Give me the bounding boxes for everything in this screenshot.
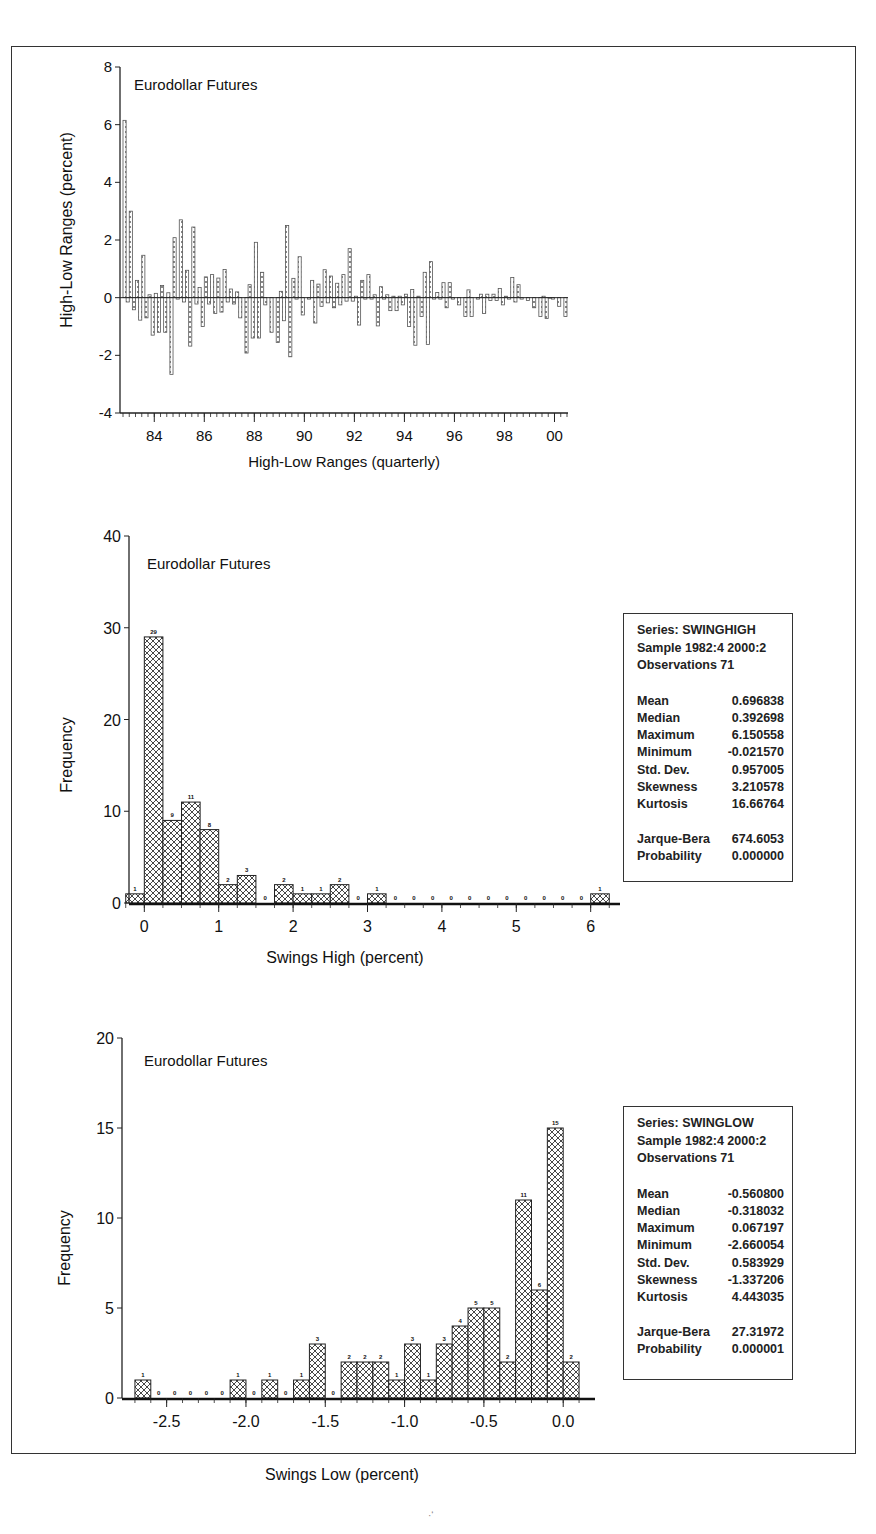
bar-low — [420, 298, 423, 317]
bar-high — [248, 285, 251, 298]
bar-low — [270, 298, 273, 333]
stat-row: Maximum6.150558 — [637, 727, 784, 744]
stat-row: Skewness-1.337206 — [637, 1272, 784, 1289]
bar-count-label: 0 — [157, 1390, 161, 1396]
bar-high — [423, 272, 426, 297]
bar-high — [136, 280, 139, 297]
x-tick-label: 1 — [214, 918, 223, 935]
bar-count-label: 11 — [188, 794, 195, 800]
x-tick-label: 94 — [396, 427, 413, 444]
stat-row: Skewness3.210578 — [637, 779, 784, 796]
bar-low — [245, 298, 248, 353]
x-tick-label: 86 — [196, 427, 213, 444]
bar-high — [129, 211, 132, 298]
chart-title: Eurodollar Futures — [144, 1052, 267, 1069]
y-tick-label: 20 — [103, 712, 121, 729]
histogram-bar — [547, 1128, 563, 1398]
bar-low — [232, 298, 235, 304]
stat-row: Mean-0.560800 — [637, 1186, 784, 1203]
bar-count-label: 1 — [268, 1372, 272, 1378]
bar-count-label: 2 — [569, 1354, 573, 1360]
bar-low — [539, 298, 542, 317]
high-low-ranges-chart: -4-202468848688909294969800 Eurodollar F… — [0, 0, 876, 500]
bar-series — [123, 120, 567, 374]
bar-high — [311, 280, 314, 297]
x-axis-label: High-Low Ranges (quarterly) — [248, 453, 440, 470]
bar-high — [211, 275, 214, 298]
bar-low — [182, 298, 185, 302]
stats-series: Series: SWINGHIGH — [637, 622, 784, 640]
bar-low — [251, 298, 254, 338]
x-tick-label: 3 — [363, 918, 372, 935]
bar-low — [445, 298, 448, 308]
bar-count-label: 0 — [189, 1390, 193, 1396]
bar-high — [179, 220, 182, 298]
histogram-bar — [275, 885, 294, 903]
bar-low — [145, 298, 148, 318]
bar-low — [332, 298, 335, 308]
stat-row: Median-0.318032 — [637, 1203, 784, 1220]
bar-count-label: 2 — [506, 1354, 510, 1360]
bar-low — [320, 298, 323, 307]
bar-low — [501, 298, 504, 305]
bar-count-label: 0 — [357, 895, 361, 901]
stats-sample: Sample 1982:4 2000:2 — [637, 640, 784, 658]
stat-row: Probability0.000001 — [637, 1341, 784, 1358]
bar-high — [279, 291, 282, 297]
bar-count-label: 0 — [284, 1390, 288, 1396]
histogram-bar — [368, 894, 387, 903]
x-axis-label: Swings Low (percent) — [265, 1466, 419, 1483]
bar-count-label: 2 — [379, 1354, 383, 1360]
bar-count-label: 0 — [221, 1390, 225, 1396]
histogram-bar — [135, 1380, 151, 1398]
histogram-bar — [219, 885, 238, 903]
stat-row: Jarque-Bera27.31972 — [637, 1324, 784, 1341]
x-axis-label: Swings High (percent) — [266, 949, 423, 966]
bar-count-label: 3 — [411, 1336, 415, 1342]
y-tick-label: 5 — [105, 1300, 114, 1317]
bar-high — [186, 270, 189, 297]
bar-low — [164, 298, 167, 333]
y-tick-label: 10 — [96, 1210, 114, 1227]
x-tick-label: 96 — [446, 427, 463, 444]
chart-axes: -4-202468848688909294969800 — [99, 58, 568, 444]
bar-count-label: 0 — [252, 1390, 256, 1396]
x-tick-label: 00 — [546, 427, 563, 444]
histogram-bars: 100000101013022213134552116152 — [135, 1120, 579, 1398]
bar-low — [289, 298, 292, 357]
bar-low — [470, 298, 473, 317]
bar-high — [379, 287, 382, 298]
bar-count-label: 0 — [450, 895, 454, 901]
bar-low — [533, 298, 536, 308]
bar-low — [195, 298, 198, 304]
stats-observations: Observations 71 — [637, 657, 784, 675]
bar-high — [361, 280, 364, 297]
histogram-bar — [389, 1380, 405, 1398]
bar-high — [348, 249, 351, 298]
stats-box-swinghigh: Series: SWINGHIGH Sample 1982:4 2000:2 O… — [623, 613, 793, 882]
bar-high — [198, 288, 201, 298]
bar-low — [376, 298, 379, 326]
bar-count-label: 0 — [543, 895, 547, 901]
stat-row: Mean0.696838 — [637, 693, 784, 710]
chart-title: Eurodollar Futures — [147, 555, 270, 572]
histogram-bar — [500, 1362, 516, 1398]
bar-count-label: 11 — [520, 1192, 527, 1198]
bar-high — [229, 289, 232, 298]
x-tick-label: 6 — [586, 918, 595, 935]
y-tick-label: 15 — [96, 1120, 114, 1137]
bar-low — [339, 298, 342, 305]
bar-low — [426, 298, 429, 345]
bar-count-label: 1 — [133, 886, 137, 892]
bar-count-label: 6 — [538, 1282, 542, 1288]
bar-count-label: 1 — [375, 886, 379, 892]
bar-count-label: 0 — [431, 895, 435, 901]
bar-high — [367, 275, 370, 298]
y-tick-label: 0 — [104, 289, 112, 306]
bar-high — [498, 288, 501, 297]
histogram-bar — [312, 894, 331, 903]
y-axis-label: High-Low Ranges (percent) — [58, 132, 75, 328]
bar-count-label: 0 — [524, 895, 528, 901]
bar-high — [467, 290, 470, 298]
stats-box-swinglow: Series: SWINGLOW Sample 1982:4 2000:2 Ob… — [623, 1106, 793, 1380]
